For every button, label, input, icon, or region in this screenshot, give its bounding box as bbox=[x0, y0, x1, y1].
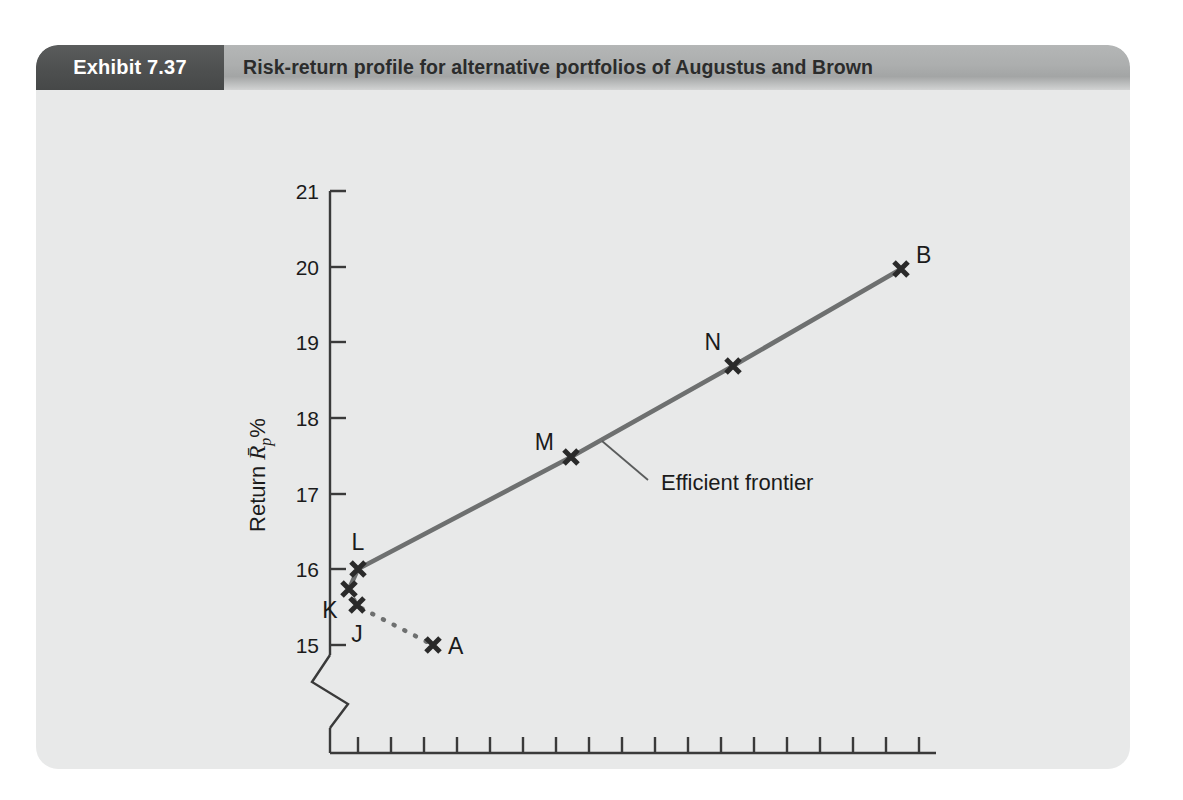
x-tick-label-15: 15 bbox=[808, 765, 831, 769]
exhibit-caption: Risk-return profile for alternative port… bbox=[243, 45, 873, 90]
x-tick-label-11: 11 bbox=[677, 765, 699, 769]
data-point-label-B: B bbox=[916, 242, 931, 268]
data-point-N[interactable] bbox=[726, 359, 740, 373]
data-point-markers bbox=[342, 262, 908, 652]
exhibit-header: Exhibit 7.37 Risk-return profile for alt… bbox=[36, 45, 1130, 90]
x-tick-label-2: 2 bbox=[385, 765, 397, 769]
x-axis-ticks bbox=[358, 737, 919, 753]
x-tick-label-7: 7 bbox=[550, 765, 562, 769]
x-tick-label-17: 17 bbox=[874, 765, 897, 769]
x-tick-label-1: 1 bbox=[352, 765, 364, 769]
y-tick-label-16: 16 bbox=[296, 558, 319, 581]
x-tick-label-12: 12 bbox=[709, 765, 732, 769]
y-tick-label-19: 19 bbox=[296, 331, 319, 354]
y-axis: 21 20 19 18 17 16 15 bbox=[296, 180, 348, 753]
y-tick-label-18: 18 bbox=[296, 407, 319, 430]
y-axis-title-subscript: p bbox=[257, 438, 275, 447]
exhibit-number-badge: Exhibit 7.37 bbox=[36, 45, 224, 90]
y-tick-label-15: 15 bbox=[296, 634, 319, 657]
y-axis-ticks bbox=[330, 191, 346, 645]
x-tick-label-3: 3 bbox=[418, 765, 430, 769]
y-tick-label-20: 20 bbox=[296, 256, 319, 279]
data-point-label-N: N bbox=[704, 329, 721, 355]
y-axis-break-zigzag bbox=[312, 655, 348, 728]
x-tick-label-5: 5 bbox=[484, 765, 496, 769]
data-point-A[interactable] bbox=[426, 638, 440, 652]
chart-plot-area: 21 20 19 18 17 16 15 Return R̄p% bbox=[36, 90, 1130, 769]
data-point-label-J: J bbox=[351, 621, 363, 647]
y-axis-title-prefix: Return bbox=[245, 460, 270, 532]
y-axis-title: Return R̄p% bbox=[245, 418, 275, 532]
svg-text:Return R̄p%: Return R̄p% bbox=[245, 418, 275, 532]
data-point-label-M: M bbox=[535, 429, 554, 455]
y-tick-label-17: 17 bbox=[296, 483, 319, 506]
x-tick-label-16: 16 bbox=[841, 765, 864, 769]
x-tick-label-6: 6 bbox=[517, 765, 529, 769]
x-tick-label-13: 13 bbox=[742, 765, 765, 769]
exhibit-panel: Exhibit 7.37 Risk-return profile for alt… bbox=[36, 45, 1130, 769]
efficient-frontier-leader-line bbox=[602, 441, 648, 480]
data-point-B[interactable] bbox=[894, 262, 908, 276]
x-tick-label-18: 18 bbox=[907, 765, 930, 769]
y-tick-label-21: 21 bbox=[296, 180, 319, 203]
risk-return-scatter-chart: 21 20 19 18 17 16 15 Return R̄p% bbox=[36, 90, 1130, 769]
data-point-label-A: A bbox=[448, 633, 464, 659]
y-axis-title-suffix: % bbox=[245, 418, 270, 438]
efficient-frontier-line bbox=[349, 269, 901, 589]
x-tick-label-4: 4 bbox=[451, 765, 463, 769]
x-tick-label-14: 14 bbox=[775, 765, 799, 769]
x-axis: 1 2 3 4 5 6 7 8 9 10 11 12 13 14 15 16 1 bbox=[330, 737, 936, 769]
x-tick-label-10: 10 bbox=[643, 765, 666, 769]
efficient-frontier-annotation: Efficient frontier bbox=[661, 470, 813, 495]
x-axis-tick-labels: 1 2 3 4 5 6 7 8 9 10 11 12 13 14 15 16 1 bbox=[352, 765, 931, 769]
x-tick-label-8: 8 bbox=[583, 765, 595, 769]
y-axis-title-symbol: R̄ bbox=[245, 446, 270, 461]
x-tick-label-9: 9 bbox=[616, 765, 628, 769]
data-point-J[interactable] bbox=[350, 598, 364, 612]
data-point-label-L: L bbox=[352, 529, 365, 555]
data-point-label-K: K bbox=[322, 597, 338, 623]
